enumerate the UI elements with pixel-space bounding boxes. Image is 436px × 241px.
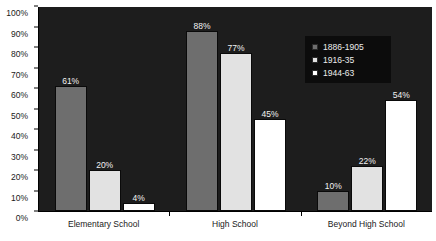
top-cut-caption	[0, 0, 436, 2]
x-axis: Elementary SchoolHigh SchoolBeyond High …	[38, 212, 432, 234]
legend-item-label: 1916-35	[323, 55, 354, 65]
bar[interactable]: 77%	[220, 53, 252, 211]
bar-value-label: 10%	[325, 181, 342, 191]
bar-value-label: 4%	[133, 193, 145, 203]
y-axis-tick-label: 90%	[11, 29, 28, 39]
bar[interactable]: 22%	[351, 166, 383, 211]
bar-slot: 88%	[186, 7, 218, 211]
bottom-cut-caption	[0, 234, 436, 241]
x-axis-category-label: High School	[212, 219, 258, 229]
bar-slot: 4%	[123, 7, 155, 211]
bar-value-label: 22%	[359, 156, 376, 166]
bar-slot: 61%	[55, 7, 87, 211]
y-axis-tick-label: 10%	[11, 193, 28, 203]
bar[interactable]: 45%	[254, 119, 286, 211]
bar[interactable]: 61%	[55, 86, 87, 211]
chart-legend: 1886-19051916-351944-63	[305, 36, 391, 83]
y-axis-tick-label: 70%	[11, 70, 28, 80]
y-axis-tick-label: 40%	[11, 131, 28, 141]
bar-group: 61%20%4%	[55, 7, 155, 211]
y-axis-tick-label: 20%	[11, 172, 28, 182]
legend-swatch-icon	[312, 57, 318, 63]
y-axis-tick-label: 100%	[6, 8, 28, 18]
legend-item[interactable]: 1944-63	[312, 66, 386, 79]
bar-value-label: 61%	[62, 76, 79, 86]
legend-item-label: 1886-1905	[323, 42, 364, 52]
legend-swatch-icon	[312, 44, 318, 50]
bar-value-label: 88%	[193, 21, 210, 31]
bar-value-label: 45%	[261, 109, 278, 119]
y-axis-tick-label: 60%	[11, 90, 28, 100]
bar-value-label: 77%	[227, 43, 244, 53]
x-axis-tick-mark	[301, 212, 302, 216]
x-axis-category-label: Elementary School	[68, 219, 139, 229]
legend-item-label: 1944-63	[323, 68, 354, 78]
bar[interactable]: 20%	[89, 170, 121, 211]
y-axis-tick-label: 30%	[11, 152, 28, 162]
bar-value-label: 54%	[393, 90, 410, 100]
bar-group: 88%77%45%	[186, 7, 286, 211]
bar[interactable]: 10%	[317, 191, 349, 212]
bar-slot: 45%	[254, 7, 286, 211]
y-axis-tick-label: 50%	[11, 111, 28, 121]
bar-slot: 77%	[220, 7, 252, 211]
bar[interactable]: 88%	[186, 31, 218, 211]
bar-slot: 20%	[89, 7, 121, 211]
y-axis: 100%90%80%70%60%50%40%30%20%10%0%	[0, 6, 34, 218]
y-axis-tick-label: 0%	[16, 213, 28, 223]
x-axis-tick-mark	[169, 212, 170, 216]
legend-item[interactable]: 1886-1905	[312, 40, 386, 53]
legend-swatch-icon	[312, 70, 318, 76]
legend-item[interactable]: 1916-35	[312, 53, 386, 66]
bar-chart: 100%90%80%70%60%50%40%30%20%10%0% 61%20%…	[0, 0, 436, 241]
bar-value-label: 20%	[96, 160, 113, 170]
bar[interactable]: 54%	[385, 100, 417, 211]
y-axis-tick-label: 80%	[11, 49, 28, 59]
x-axis-category-label: Beyond High School	[328, 219, 405, 229]
bar[interactable]: 4%	[123, 203, 155, 211]
